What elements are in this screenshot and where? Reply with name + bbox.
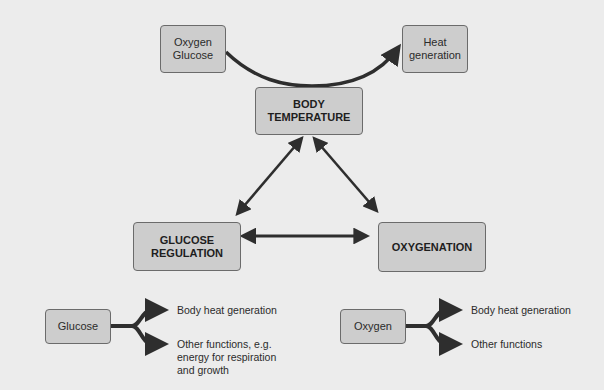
glucose-fork-arrows <box>111 310 163 344</box>
glucose-output-other-functions: Other functions, e.g. energy for respira… <box>177 338 276 377</box>
oxygen-output-body-heat: Body heat generation <box>471 304 571 317</box>
oxygen-source-box: Oxygen <box>340 309 406 344</box>
oxygenation-node: OXYGENATION <box>378 222 486 272</box>
arrow-temperature-glucose <box>238 145 296 213</box>
arrow-temperature-oxygenation <box>320 145 376 210</box>
glucose-regulation-node: GLUCOSE REGULATION <box>133 222 241 271</box>
heat-generation-box: Heat generation <box>402 25 468 73</box>
oxygen-fork-arrows <box>405 310 457 344</box>
glucose-source-box: Glucose <box>45 309 111 344</box>
glucose-output-body-heat: Body heat generation <box>177 304 277 317</box>
oxygen-output-other-functions: Other functions <box>471 338 542 351</box>
oxygen-glucose-box: Oxygen Glucose <box>160 25 226 73</box>
diagram-canvas: Oxygen Glucose Heat generation BODY TEMP… <box>0 0 604 390</box>
curved-arrow-to-heat-generation <box>226 48 398 86</box>
body-temperature-node: BODY TEMPERATURE <box>255 87 363 135</box>
